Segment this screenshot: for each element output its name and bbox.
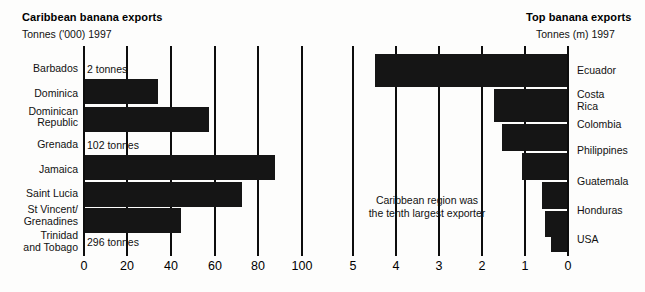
left-note-barbados: 2 tonnes xyxy=(87,63,127,75)
left-bar-dominica xyxy=(85,79,158,104)
right-category-usa: USA xyxy=(577,234,599,246)
left-category-st-vincent-line1: St Vincent/ xyxy=(0,204,78,216)
right-bar-costa-rica xyxy=(494,89,567,122)
right-chart-title: Top banana exports xyxy=(526,11,632,23)
right-category-ecuador: Ecuador xyxy=(577,65,616,77)
left-category-dominica: Dominica xyxy=(0,88,78,100)
left-category-saint-lucia: Saint Lucia xyxy=(0,188,78,200)
right-tick-5: 5 xyxy=(333,259,373,273)
caribbean-rank-annotation-line2: the tenth largest exporter xyxy=(352,207,502,221)
right-category-costa-rica-line2: Rica xyxy=(577,101,598,113)
right-bar-guatemala xyxy=(542,182,567,209)
left-tick-20: 20 xyxy=(107,259,147,273)
right-category-costa-rica-line1: Costa xyxy=(577,89,604,101)
left-category-trinidad-line1: Trinidad xyxy=(0,230,78,242)
left-category-barbados: Barbados xyxy=(0,63,78,75)
left-bar-saint-lucia xyxy=(85,182,242,207)
left-tick-0: 0 xyxy=(64,259,104,273)
left-bar-st-vincent xyxy=(85,208,181,233)
right-tick-4: 4 xyxy=(376,259,416,273)
right-tick-1: 1 xyxy=(505,259,545,273)
right-bar-colombia xyxy=(502,124,567,151)
left-category-dominican-republic-line2: Republic xyxy=(0,117,78,129)
left-note-grenada: 102 tonnes xyxy=(87,139,139,151)
right-axis-zero-line xyxy=(567,46,569,256)
left-tick-40: 40 xyxy=(151,259,191,273)
left-gridline-60 xyxy=(214,46,216,256)
left-tick-100: 100 xyxy=(282,259,322,273)
left-bar-jamaica xyxy=(85,155,275,180)
caribbean-rank-annotation-line1: Caribbean region was xyxy=(352,194,502,208)
left-chart-subtitle: Tonnes ('000) 1997 xyxy=(22,28,112,40)
left-category-trinidad-line2: and Tobago xyxy=(0,242,78,254)
right-tick-2: 2 xyxy=(462,259,502,273)
left-category-grenada: Grenada xyxy=(0,139,78,151)
left-bar-dominican-republic xyxy=(85,107,209,132)
right-gridline-5 xyxy=(352,46,354,256)
left-note-trinidad: 296 tonnes xyxy=(87,236,139,248)
right-category-guatemala: Guatemala xyxy=(577,176,628,188)
left-gridline-80 xyxy=(257,46,259,256)
right-tick-3: 3 xyxy=(419,259,459,273)
right-bar-philippines xyxy=(522,153,567,180)
right-bar-usa xyxy=(551,226,567,252)
left-tick-60: 60 xyxy=(195,259,235,273)
left-category-st-vincent-line2: Grenadines xyxy=(0,216,78,228)
right-category-colombia: Colombia xyxy=(577,119,621,131)
right-bar-ecuador xyxy=(375,54,567,87)
right-category-philippines: Philippines xyxy=(577,145,628,157)
left-tick-80: 80 xyxy=(238,259,278,273)
right-category-honduras: Honduras xyxy=(577,205,623,217)
left-gridline-100 xyxy=(301,46,303,256)
banana-exports-figure: Caribbean banana exports Tonnes ('000) 1… xyxy=(0,0,645,292)
left-category-jamaica: Jamaica xyxy=(0,164,78,176)
right-chart-subtitle: Tonnes (m) 1997 xyxy=(536,28,615,40)
right-tick-0: 0 xyxy=(548,259,588,273)
left-chart-title: Caribbean banana exports xyxy=(22,11,163,23)
